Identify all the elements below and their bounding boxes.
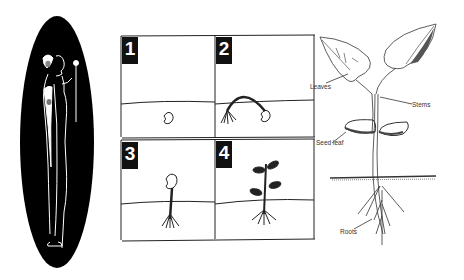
label-seed-leaf: Seed leaf: [316, 139, 343, 146]
label-leaves: Leaves: [310, 83, 331, 90]
panel-number-3: 3: [122, 142, 138, 169]
egyptian-figure-illustration: [18, 14, 96, 270]
plant-anatomy-diagram: Leaves Stems Seed leaf Roots: [300, 20, 464, 250]
label-roots: Roots: [340, 228, 357, 235]
plant-anatomy-illustration: [300, 20, 464, 250]
panel-number-4: 4: [216, 141, 232, 168]
panel-number-1: 1: [122, 37, 138, 64]
egyptian-figure-oval: [18, 14, 96, 270]
germination-panels-illustration: [120, 34, 316, 244]
label-stems: Stems: [412, 101, 430, 108]
panel-number-2: 2: [216, 37, 232, 64]
germination-sequence: 1 2 3 4: [120, 34, 316, 244]
